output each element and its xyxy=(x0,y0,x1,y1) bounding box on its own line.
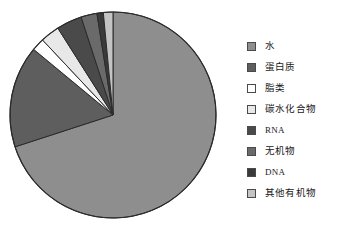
legend-swatch-rna xyxy=(247,126,256,135)
legend-swatch-carbohydrates xyxy=(247,105,256,114)
chart-legend: 水 蛋白质 脂类 碳水化合物 RNA 无机物 DNA 其他有机物 xyxy=(247,36,337,204)
legend-item-lipids[interactable]: 脂类 xyxy=(247,78,337,99)
legend-item-carbohydrates[interactable]: 碳水化合物 xyxy=(247,99,337,120)
legend-item-inorganic[interactable]: 无机物 xyxy=(247,141,337,162)
legend-swatch-dna xyxy=(247,168,256,177)
legend-label-other-organics: 其他有机物 xyxy=(265,188,316,199)
legend-label-lipids: 脂类 xyxy=(265,83,285,94)
legend-swatch-protein xyxy=(247,63,256,72)
legend-item-rna[interactable]: RNA xyxy=(247,120,337,141)
pie-slice-group xyxy=(10,12,216,218)
legend-label-carbohydrates: 碳水化合物 xyxy=(265,104,316,115)
legend-label-inorganic: 无机物 xyxy=(265,146,296,157)
legend-label-water: 水 xyxy=(265,41,275,52)
legend-swatch-water xyxy=(247,42,256,51)
pie-plot-area xyxy=(0,0,232,235)
legend-item-other-organics[interactable]: 其他有机物 xyxy=(247,183,337,204)
legend-item-water[interactable]: 水 xyxy=(247,36,337,57)
legend-swatch-lipids xyxy=(247,84,256,93)
legend-item-protein[interactable]: 蛋白质 xyxy=(247,57,337,78)
legend-swatch-inorganic xyxy=(247,147,256,156)
legend-swatch-other-organics xyxy=(247,189,256,198)
legend-label-rna: RNA xyxy=(265,125,285,136)
pie-chart-figure: 水 蛋白质 脂类 碳水化合物 RNA 无机物 DNA 其他有机物 xyxy=(0,0,339,235)
legend-label-dna: DNA xyxy=(265,167,285,178)
pie-svg xyxy=(0,0,232,235)
legend-label-protein: 蛋白质 xyxy=(265,62,296,73)
legend-item-dna[interactable]: DNA xyxy=(247,162,337,183)
